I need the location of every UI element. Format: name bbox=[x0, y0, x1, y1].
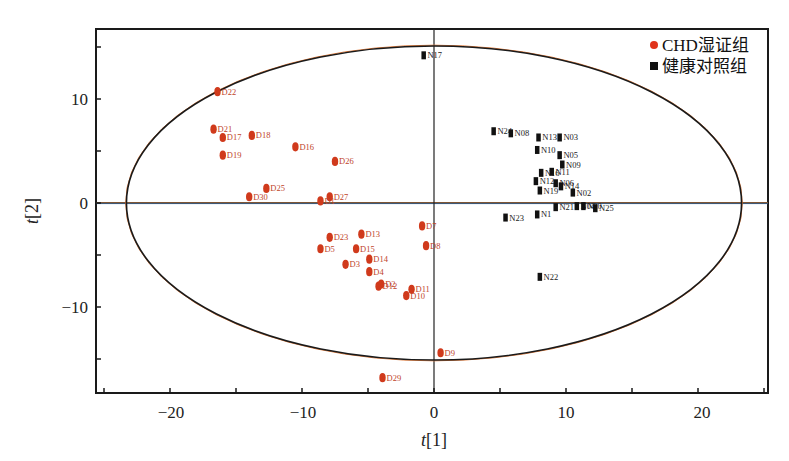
data-point-chd bbox=[214, 87, 220, 96]
data-point-control bbox=[535, 210, 540, 218]
data-point-label: D7 bbox=[426, 221, 436, 231]
data-point-label: D9 bbox=[445, 348, 455, 358]
plot-area: D22D21D17D18D19D16D26D25D30D27D1D23D13D5… bbox=[96, 29, 768, 393]
data-point-label: N02 bbox=[577, 188, 592, 198]
legend-label-chd: CHD湿证组 bbox=[662, 36, 749, 55]
x-axis-title: t[1] bbox=[421, 430, 447, 450]
data-point-label: N03 bbox=[563, 132, 578, 142]
data-point-label: D26 bbox=[339, 156, 354, 166]
y-tick-label: −10 bbox=[61, 298, 88, 317]
data-point-label: D19 bbox=[227, 150, 242, 160]
data-point-control bbox=[593, 204, 598, 212]
data-point-control bbox=[509, 129, 514, 137]
data-point-label: N13 bbox=[542, 132, 557, 142]
y-tick-label: 10 bbox=[71, 90, 88, 109]
data-point-label: N25 bbox=[599, 203, 614, 213]
data-point-control bbox=[535, 146, 540, 154]
legend-label-control: 健康对照组 bbox=[662, 57, 747, 76]
data-point-label: N17 bbox=[427, 50, 442, 60]
data-point-chd bbox=[378, 280, 384, 289]
data-point-chd bbox=[220, 151, 226, 160]
data-point-label: D8 bbox=[430, 241, 440, 251]
data-point-chd bbox=[353, 244, 359, 253]
data-point-chd bbox=[210, 125, 216, 134]
data-point-chd bbox=[220, 133, 226, 142]
data-point-chd bbox=[249, 131, 255, 140]
data-point-label: D27 bbox=[334, 192, 349, 202]
data-point-label: D16 bbox=[299, 142, 314, 152]
data-point-chd bbox=[437, 348, 443, 357]
data-point-label: N23 bbox=[509, 213, 524, 223]
y-axis-title: t[2] bbox=[22, 198, 42, 224]
data-point-chd bbox=[327, 233, 333, 242]
data-point-control bbox=[538, 273, 543, 281]
data-point-label: D3 bbox=[350, 259, 360, 269]
data-point-control bbox=[559, 182, 564, 190]
x-tick-label: 0 bbox=[430, 403, 439, 422]
data-point-label: D4 bbox=[373, 267, 384, 277]
data-point-chd bbox=[366, 267, 372, 276]
data-point-control bbox=[581, 202, 586, 210]
data-point-chd bbox=[358, 230, 364, 239]
legend: CHD湿证组 健康对照组 bbox=[650, 36, 749, 76]
data-point-label: D22 bbox=[222, 87, 237, 97]
data-point-control bbox=[534, 177, 539, 185]
data-point-chd bbox=[423, 241, 429, 250]
data-point-control bbox=[553, 203, 558, 211]
data-point-label: D15 bbox=[360, 244, 375, 254]
data-point-label: D5 bbox=[324, 244, 334, 254]
x-tick-label: −20 bbox=[158, 403, 185, 422]
data-point-label: D25 bbox=[270, 183, 285, 193]
data-point-control bbox=[557, 151, 562, 159]
data-point-label: D18 bbox=[256, 130, 271, 140]
y-tick-label: 0 bbox=[80, 194, 89, 213]
data-point-label: D2 bbox=[385, 279, 395, 289]
data-point-chd bbox=[246, 192, 252, 201]
pca-score-plot: D22D21D17D18D19D16D26D25D30D27D1D23D13D5… bbox=[0, 0, 789, 461]
data-point-label: D1 bbox=[324, 196, 334, 206]
data-point-label: N1 bbox=[541, 209, 551, 219]
data-point-control bbox=[503, 214, 508, 222]
data-point-control bbox=[491, 127, 496, 135]
data-point-label: D17 bbox=[227, 132, 242, 142]
data-point-control bbox=[557, 133, 562, 141]
data-point-label: D10 bbox=[410, 291, 425, 301]
data-point-chd bbox=[379, 373, 385, 382]
data-point-label: N19 bbox=[544, 186, 559, 196]
data-point-control bbox=[575, 202, 580, 210]
legend-square-marker-icon bbox=[650, 62, 658, 70]
x-tick-label: −10 bbox=[290, 403, 317, 422]
data-point-control bbox=[536, 133, 541, 141]
data-point-chd bbox=[366, 255, 372, 264]
data-point-label: N21 bbox=[559, 202, 574, 212]
x-tick-label: 10 bbox=[558, 403, 575, 422]
data-point-chd bbox=[317, 244, 323, 253]
data-point-label: D30 bbox=[253, 192, 268, 202]
data-point-label: N08 bbox=[515, 128, 530, 138]
data-point-chd bbox=[317, 196, 323, 205]
legend-circle-marker-icon bbox=[650, 41, 658, 49]
x-tick-label: 20 bbox=[694, 403, 711, 422]
data-point-chd bbox=[403, 291, 409, 300]
data-point-label: D23 bbox=[334, 232, 349, 242]
data-point-label: D14 bbox=[373, 254, 388, 264]
data-point-control bbox=[571, 189, 576, 197]
data-point-chd bbox=[332, 157, 338, 166]
data-point-label: N10 bbox=[541, 145, 556, 155]
data-point-chd bbox=[419, 221, 425, 230]
data-point-label: N22 bbox=[544, 272, 559, 282]
data-point-control bbox=[421, 51, 426, 59]
plot-frame bbox=[96, 29, 768, 393]
data-point-label: D29 bbox=[387, 373, 402, 383]
data-point-label: D13 bbox=[365, 229, 380, 239]
data-point-control bbox=[538, 187, 543, 195]
data-point-chd bbox=[292, 142, 298, 151]
data-point-chd bbox=[342, 260, 348, 269]
